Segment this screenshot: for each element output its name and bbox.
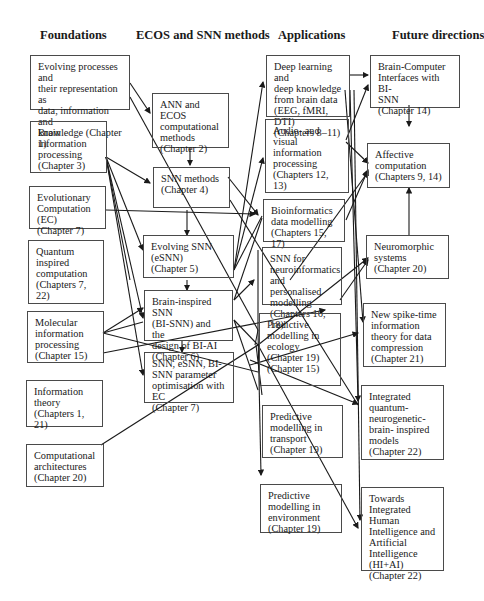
box-snn-parameter-optimisation: SNN, eSNN, BI- SNN parameter optimisatio… bbox=[144, 352, 234, 403]
box-brain-information-processing: Brain information processing (Chapter 3) bbox=[30, 121, 107, 173]
box-spike-time-information-theory: New spike-time information theory for da… bbox=[363, 303, 446, 367]
box-brain-computer-interfaces: Brain-Computer Interfaces with BI- SNN (… bbox=[370, 55, 460, 108]
box-quantum-neurogenetic-models: Integrated quantum- neurogenetic- brain-… bbox=[361, 385, 444, 460]
box-predictive-environment: Predictive modelling in environment (Cha… bbox=[260, 484, 342, 533]
box-bioinformatics-data-modelling: Bioinformatics data modelling (Chapters … bbox=[263, 199, 345, 242]
header-ecos-snn-methods: ECOS and SNN methods bbox=[136, 28, 270, 43]
box-quantum-inspired-computation: Quantum inspired computation (Chapters 7… bbox=[28, 240, 104, 304]
box-ann-ecos-methods: ANN and ECOS computational methods (Chap… bbox=[152, 93, 229, 148]
header-future-directions: Future directions bbox=[392, 28, 484, 43]
box-predictive-transport: Predictive modelling in transport (Chapt… bbox=[262, 405, 343, 458]
box-brain-inspired-snn: Brain-inspired SNN (BI-SNN) and the desi… bbox=[144, 290, 233, 341]
box-evolving-processes: Evolving processes and their representat… bbox=[30, 55, 130, 110]
header-applications: Applications bbox=[278, 28, 345, 43]
box-snn-neuroinformatics: SNN for neuroinformatics and personalise… bbox=[262, 247, 342, 305]
box-snn-methods: SNN methods (Chapter 4) bbox=[153, 167, 230, 208]
box-computational-architectures: Computational architectures (Chapter 20) bbox=[26, 444, 104, 487]
box-evolutionary-computation: Evolutionary Computation (EC) (Chapter 7… bbox=[29, 186, 106, 229]
box-audio-visual-processing: Audio- and visual information processing… bbox=[265, 119, 349, 193]
box-deep-learning-brain-data: Deep learning and deep knowledge from br… bbox=[266, 55, 350, 117]
box-predictive-ecology: Predictive modelling in ecology (Chapter… bbox=[259, 313, 341, 386]
box-molecular-information-processing: Molecular information processing (Chapte… bbox=[27, 311, 104, 363]
box-integrated-hi-ai: Towards Integrated Human Intelligence an… bbox=[361, 487, 444, 571]
box-evolving-snn: Evolving SNN (eSNN) (Chapter 5) bbox=[143, 235, 234, 278]
header-foundations: Foundations bbox=[40, 28, 107, 43]
box-affective-computation: Affective computation (Chapters 9, 14) bbox=[367, 143, 450, 188]
box-information-theory: Information theory (Chapters 1, 21) bbox=[26, 380, 103, 427]
box-neuromorphic-systems: Neuromorphic systems (Chapter 20) bbox=[366, 235, 449, 279]
